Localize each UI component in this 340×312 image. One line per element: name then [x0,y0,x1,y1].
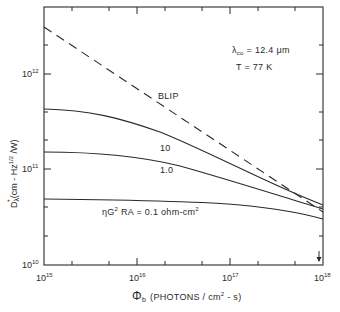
curve-label-1-0: 1.0 [160,165,173,175]
y-tick-label-1e10: 1010 [22,259,39,270]
y-tick-label-1e11: 1011 [22,163,39,174]
y-tick-label-1e12: 1012 [22,68,39,79]
arrow-marker-icon [317,251,322,262]
chart: 1012 1011 1010 1015 1016 1017 1018 Φb(PH… [0,0,340,312]
x-tick-label-1e16: 1016 [129,272,146,283]
curve-label-0-1: ηG2 RA = 0.1 ohm-cm2 [102,206,199,217]
curve-1-0 [44,152,323,209]
x-tick-label-1e17: 1017 [222,272,239,283]
temperature-label: T = 77 K [236,62,273,72]
curve-label-blip: BLIP [158,91,179,101]
x-tick-label-1e15: 1015 [36,272,53,283]
y-axis-title: Dλ*(cm - Hz1/2 /W) [6,139,20,208]
lambda-cutoff-label: λco = 12.4 μm [232,45,290,56]
curve-10 [44,109,323,205]
curve-label-10: 10 [160,143,171,153]
x-axis-title: Φb(PHOTONS / cm2 - s) [132,289,241,303]
x-tick-label-1e18: 1018 [314,272,331,283]
